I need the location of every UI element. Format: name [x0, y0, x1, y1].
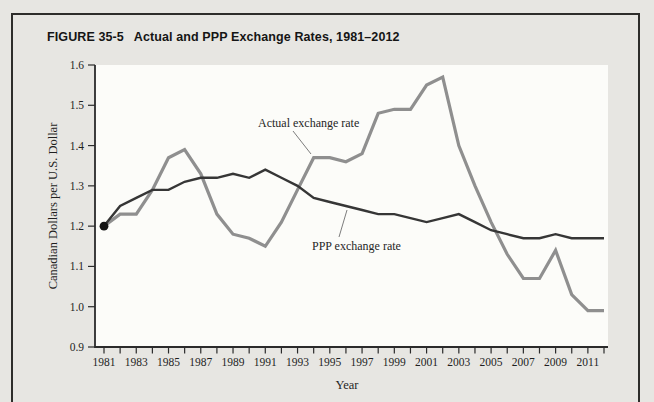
x-axis-ticks	[104, 347, 604, 354]
x-tick-label: 2001	[415, 356, 438, 368]
x-tick-label: 1995	[318, 356, 341, 368]
y-tick-label: 1.1	[70, 260, 85, 272]
textbook-page: FIGURE 35-5Actual and PPP Exchange Rates…	[0, 0, 654, 402]
x-tick-label: 1987	[189, 356, 212, 368]
exchange-rate-chart: 1.61.51.41.31.21.11.00.9 198119831985198…	[0, 0, 654, 402]
y-axis-ticks	[88, 65, 95, 347]
x-tick-label: 1991	[254, 356, 277, 368]
x-tick-label: 1999	[383, 356, 406, 368]
x-tick-label: 1997	[351, 356, 374, 368]
y-tick-label: 0.9	[70, 341, 85, 353]
x-axis-tick-labels: 1981198319851987198919911993199519971999…	[93, 356, 600, 368]
y-tick-label: 1.4	[70, 140, 85, 152]
plot-area	[95, 65, 608, 347]
y-axis-title: Canadian Dollars per U.S. Dollar	[46, 122, 60, 289]
x-tick-label: 2005	[480, 356, 503, 368]
x-tick-label: 1981	[93, 356, 116, 368]
ppp-series-label: PPP exchange rate	[312, 239, 401, 253]
y-tick-label: 1.3	[70, 180, 85, 192]
y-tick-label: 1.0	[70, 301, 85, 313]
x-tick-label: 1989	[222, 356, 245, 368]
y-tick-label: 1.2	[70, 220, 85, 232]
series-markers	[100, 222, 109, 231]
x-tick-label: 2009	[544, 356, 567, 368]
x-tick-label: 2003	[447, 356, 470, 368]
x-tick-label: 2007	[512, 356, 535, 368]
x-tick-label: 1983	[125, 356, 148, 368]
y-tick-label: 1.5	[70, 99, 85, 111]
x-tick-label: 1993	[286, 356, 309, 368]
y-tick-label: 1.6	[70, 59, 85, 71]
actual-series-label: Actual exchange rate	[258, 116, 359, 130]
x-tick-label: 1985	[157, 356, 180, 368]
x-axis-title: Year	[335, 378, 359, 392]
y-axis-tick-labels: 1.61.51.41.31.21.11.00.9	[70, 59, 85, 353]
x-tick-label: 2011	[577, 356, 600, 368]
start-point-marker	[100, 222, 109, 231]
